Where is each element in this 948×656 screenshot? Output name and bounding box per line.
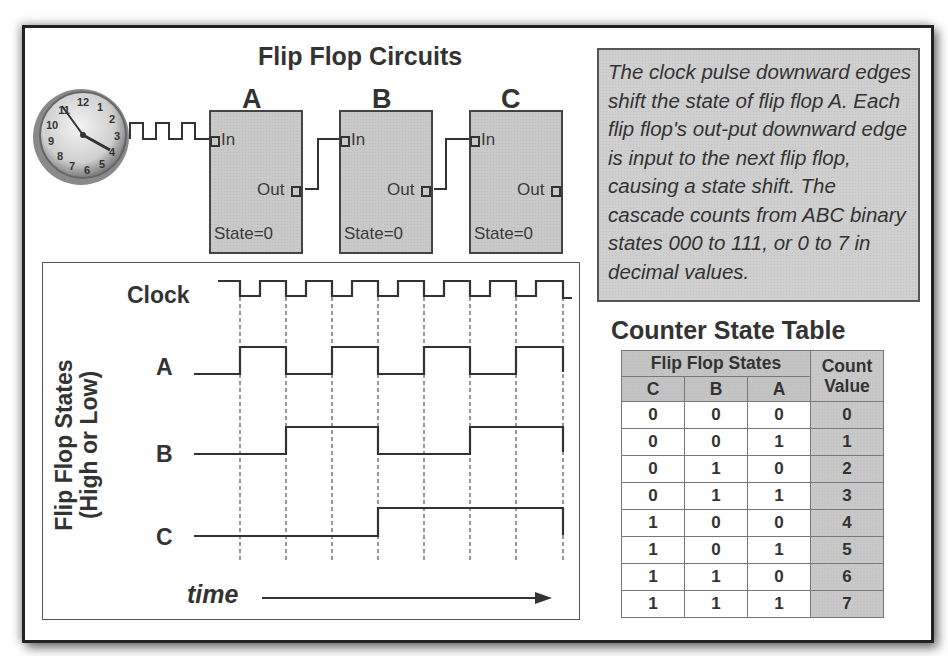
clock-waveform: [218, 281, 572, 298]
cell-c: 0: [622, 483, 685, 510]
timing-waveforms: [0, 0, 600, 640]
cell-b: 1: [685, 483, 748, 510]
time-arrow-head: [535, 592, 552, 604]
cell-a: 1: [748, 429, 811, 456]
cell-count: 1: [811, 429, 884, 456]
cell-a: 1: [748, 591, 811, 618]
cell-c: 1: [622, 537, 685, 564]
cell-c: 0: [622, 402, 685, 429]
cell-count: 4: [811, 510, 884, 537]
cell-a: 0: [748, 456, 811, 483]
a-waveform: [194, 347, 563, 374]
time-axis-label: time: [187, 580, 238, 609]
cell-a: 0: [748, 564, 811, 591]
count-value-header: Count Value: [811, 351, 884, 402]
b-waveform: [194, 427, 563, 454]
cell-c: 1: [622, 564, 685, 591]
group-header: Flip Flop States: [622, 351, 811, 377]
cell-a: 1: [748, 483, 811, 510]
column-header-c: C: [622, 377, 685, 402]
table-row: 0102: [622, 456, 884, 483]
table-row: 1015: [622, 537, 884, 564]
c-waveform: [194, 508, 563, 536]
table-row: 1004: [622, 510, 884, 537]
cell-a: 0: [748, 402, 811, 429]
cell-b: 1: [685, 456, 748, 483]
cell-c: 1: [622, 510, 685, 537]
cell-count: 0: [811, 402, 884, 429]
cell-b: 0: [685, 510, 748, 537]
cell-b: 1: [685, 591, 748, 618]
cell-count: 3: [811, 483, 884, 510]
cell-count: 5: [811, 537, 884, 564]
cell-b: 0: [685, 429, 748, 456]
cell-count: 2: [811, 456, 884, 483]
cell-c: 1: [622, 591, 685, 618]
cell-c: 0: [622, 429, 685, 456]
table-title: Counter State Table: [611, 316, 845, 345]
table-row: 0011: [622, 429, 884, 456]
counter-state-table: Flip Flop States Count Value C B A 0000 …: [621, 350, 884, 618]
count-header-line-2: Value: [824, 376, 870, 396]
count-header-line-1: Count: [822, 356, 873, 376]
cell-a: 1: [748, 537, 811, 564]
table-row: 0113: [622, 483, 884, 510]
table-row: 1106: [622, 564, 884, 591]
column-header-a: A: [748, 377, 811, 402]
table-row: 1117: [622, 591, 884, 618]
cell-count: 7: [811, 591, 884, 618]
cell-c: 0: [622, 456, 685, 483]
cell-count: 6: [811, 564, 884, 591]
column-header-b: B: [685, 377, 748, 402]
cell-b: 0: [685, 402, 748, 429]
explanation-note: The clock pulse downward edges shift the…: [597, 48, 920, 302]
cell-a: 0: [748, 510, 811, 537]
cell-b: 0: [685, 537, 748, 564]
table-row: 0000: [622, 402, 884, 429]
cell-b: 1: [685, 564, 748, 591]
